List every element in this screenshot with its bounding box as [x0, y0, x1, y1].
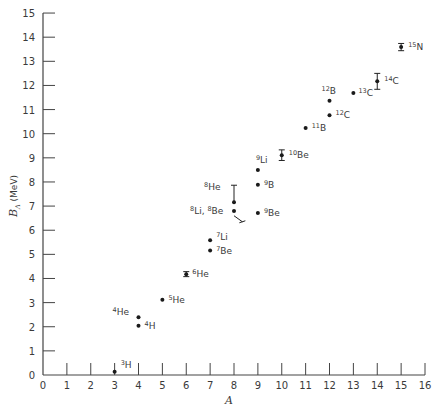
data-point-6he: 6He	[183, 268, 209, 279]
x-tick-label: 3	[111, 380, 117, 391]
point-label: 8He	[204, 181, 221, 192]
y-tick-label: 0	[29, 370, 35, 381]
data-point-7li: 7Li	[208, 231, 228, 242]
hypernuclear-binding-energy-chart: 012345678910111213141516 012345678910111…	[0, 0, 439, 412]
x-tick-label: 14	[371, 380, 384, 391]
x-tick-label: 8	[231, 380, 237, 391]
x-tick-label: 5	[159, 380, 165, 391]
x-tick-label: 12	[323, 380, 336, 391]
marker	[232, 209, 236, 213]
marker	[137, 315, 141, 319]
x-tick-label: 0	[40, 380, 46, 391]
y-axis-title-main: B	[7, 209, 20, 218]
data-point-3h: 3H	[113, 359, 132, 374]
data-point-12b: 12B	[322, 85, 336, 103]
marker	[184, 272, 188, 276]
data-point-13c: 13C	[351, 87, 373, 98]
y-tick-label: 1	[29, 346, 35, 357]
marker	[280, 153, 284, 157]
y-axis-ticks: 0123456789101112131415	[22, 8, 55, 381]
marker	[208, 238, 212, 242]
point-label: 10Be	[289, 149, 309, 160]
point-label: 4H	[145, 320, 156, 331]
data-point-10be: 10Be	[279, 149, 309, 160]
marker	[256, 211, 260, 215]
point-label: 5He	[168, 294, 185, 305]
y-tick-label: 11	[22, 105, 35, 116]
y-tick-label: 14	[22, 32, 35, 43]
y-tick-label: 3	[29, 298, 35, 309]
marker	[232, 200, 236, 204]
x-axis-ticks: 012345678910111213141516	[40, 363, 432, 391]
y-tick-label: 10	[22, 129, 35, 140]
point-label: 7Be	[216, 245, 232, 256]
data-point-8he: 8He	[204, 181, 237, 204]
marker	[351, 91, 355, 95]
x-tick-label: 9	[255, 380, 261, 391]
data-point-15n: 15N	[398, 41, 423, 52]
point-label: 15N	[408, 41, 423, 52]
y-tick-label: 15	[22, 8, 35, 19]
y-tick-label: 13	[22, 56, 35, 67]
y-tick-label: 5	[29, 249, 35, 260]
marker	[208, 248, 212, 252]
marker	[399, 45, 403, 49]
x-tick-label: 1	[64, 380, 70, 391]
point-label: 11B	[312, 122, 326, 133]
marker	[328, 113, 332, 117]
marker	[113, 370, 117, 374]
point-label: 9Be	[264, 207, 280, 218]
point-label: 9B	[264, 179, 274, 190]
x-axis-title: A	[224, 394, 233, 407]
data-point-11b: 11B	[304, 122, 326, 133]
slanted-error-cap	[239, 221, 245, 223]
point-label: 9Li	[256, 154, 268, 165]
x-tick-label: 10	[275, 380, 288, 391]
y-tick-label: 12	[22, 80, 35, 91]
marker	[304, 126, 308, 130]
slanted-error-bar	[234, 216, 242, 222]
y-tick-label: 6	[29, 225, 35, 236]
point-label: 13C	[358, 87, 373, 98]
marker	[328, 99, 332, 103]
marker	[375, 79, 379, 83]
x-tick-label: 11	[299, 380, 312, 391]
y-tick-label: 4	[29, 273, 35, 284]
y-tick-label: 9	[29, 153, 35, 164]
point-label: 12C	[336, 109, 351, 120]
point-label: 7Li	[216, 231, 228, 242]
y-tick-label: 8	[29, 177, 35, 188]
data-point-4he: 4He	[113, 306, 141, 319]
y-axis-title: BΛ (MeV)	[7, 175, 22, 218]
point-label: 6He	[192, 268, 209, 279]
x-tick-label: 4	[135, 380, 141, 391]
x-tick-label: 7	[207, 380, 213, 391]
y-tick-label: 2	[29, 322, 35, 333]
x-tick-label: 13	[347, 380, 360, 391]
x-tick-label: 2	[88, 380, 94, 391]
point-label: 8Li, 8Be	[190, 205, 224, 216]
point-label: 12B	[322, 85, 336, 96]
x-tick-label: 15	[395, 380, 408, 391]
point-label: 4He	[113, 306, 130, 317]
data-points: 3H4H4He5He6He7Li7Be8He8Li, 8Be9Li9B9Be10…	[113, 41, 424, 374]
data-point-12c: 12C	[328, 109, 351, 120]
data-point-5he: 5He	[160, 294, 185, 305]
y-tick-label: 7	[29, 201, 35, 212]
data-point-9b: 9B	[256, 179, 274, 190]
x-tick-label: 16	[419, 380, 432, 391]
data-point-8li-8be: 8Li, 8Be	[190, 205, 236, 216]
marker	[256, 168, 260, 172]
data-point-9be: 9Be	[256, 207, 280, 218]
data-point-4h: 4H	[137, 320, 156, 331]
data-point-7be: 7Be	[208, 245, 232, 256]
marker	[137, 324, 141, 328]
data-point-14c: 14C	[374, 73, 399, 89]
y-axis-title-unit: (MeV)	[9, 175, 19, 204]
marker	[256, 183, 260, 187]
point-label: 14C	[384, 75, 399, 86]
point-label: 3H	[121, 359, 132, 370]
marker	[160, 298, 164, 302]
x-tick-label: 6	[183, 380, 189, 391]
data-point-9li: 9Li	[256, 154, 268, 172]
